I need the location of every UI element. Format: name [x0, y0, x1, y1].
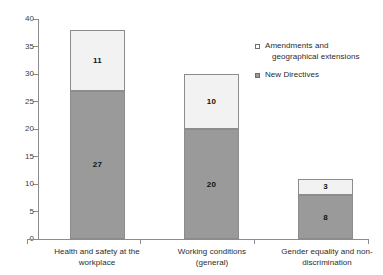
- bar-value-label: 20: [207, 180, 216, 189]
- y-tick-label: 25: [4, 96, 34, 107]
- legend-label-line-2: geographical extensions: [265, 52, 380, 63]
- x-tick-mark: [254, 239, 255, 244]
- bar-value-label: 27: [93, 160, 102, 169]
- legend-label-line-1: Amendments and: [265, 41, 328, 50]
- y-tick-label: 20: [4, 123, 34, 134]
- legend-label-new-directives: New Directives: [265, 70, 380, 81]
- y-tick-label: 40: [4, 13, 34, 24]
- x-category-label-gender-equality: Gender equality and non- discrimination: [268, 247, 383, 268]
- bar-value-label: 8: [323, 213, 328, 222]
- bar-group-health-and-safety[interactable]: 11 27: [70, 30, 125, 239]
- x-tick-mark: [140, 239, 141, 244]
- stacked-bar-chart: 40 35 30 25 20 15 10 5 0 11: [0, 0, 383, 275]
- y-tick-label: 35: [4, 41, 34, 52]
- x-tick-mark: [368, 239, 369, 244]
- bar-segment-new-directives[interactable]: 20: [184, 129, 239, 239]
- legend-item-new-directives[interactable]: New Directives: [255, 70, 380, 81]
- x-axis-line: [27, 239, 368, 240]
- x-category-line-2: (general): [196, 258, 228, 267]
- y-tick-label: 10: [4, 178, 34, 189]
- x-category-line-1: Gender equality and non-: [281, 247, 373, 256]
- legend-item-amendments[interactable]: Amendments and geographical extensions: [255, 41, 380, 62]
- x-category-line-2: discrimination: [302, 258, 352, 267]
- legend-label-amendments: Amendments and geographical extensions: [265, 41, 380, 62]
- bar-segment-amendments[interactable]: 10: [184, 74, 239, 129]
- y-axis-line: [38, 19, 39, 240]
- chart-legend: Amendments and geographical extensions N…: [255, 41, 380, 89]
- y-tick-label: 30: [4, 68, 34, 79]
- x-category-line-2: workplace: [79, 258, 115, 267]
- x-category-label-working-conditions: Working conditions (general): [157, 247, 267, 268]
- x-tick-mark: [27, 239, 28, 244]
- bar-segment-amendments[interactable]: 11: [70, 30, 125, 91]
- bar-value-label: 3: [323, 182, 328, 191]
- y-tick-label: 5: [4, 206, 34, 217]
- legend-swatch-icon: [255, 44, 260, 49]
- legend-swatch-icon: [255, 73, 260, 78]
- bar-segment-amendments[interactable]: 3: [298, 179, 353, 196]
- x-category-line-1: Working conditions: [178, 247, 246, 256]
- x-category-label-health-and-safety: Health and safety at the workplace: [42, 247, 152, 268]
- bar-group-working-conditions[interactable]: 10 20: [184, 74, 239, 239]
- x-category-line-1: Health and safety at the: [54, 247, 140, 256]
- bar-value-label: 11: [93, 56, 102, 65]
- bar-segment-new-directives[interactable]: 8: [298, 195, 353, 239]
- bar-segment-new-directives[interactable]: 27: [70, 91, 125, 240]
- y-tick-label: 15: [4, 151, 34, 162]
- bar-group-gender-equality[interactable]: 3 8: [298, 179, 353, 240]
- bar-value-label: 10: [207, 97, 216, 106]
